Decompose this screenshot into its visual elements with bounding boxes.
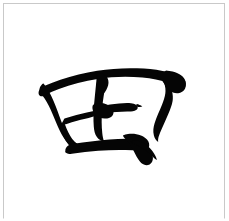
stroke-top-horizontal <box>39 68 179 96</box>
stroke-top-right-wedge <box>157 71 186 93</box>
ink-fleck-crossbar-tip <box>136 104 142 107</box>
calligraphy-glyph-tian-icon <box>0 0 229 221</box>
screenshot-root: 田 <box>0 0 229 221</box>
glyph-stage <box>0 0 229 221</box>
